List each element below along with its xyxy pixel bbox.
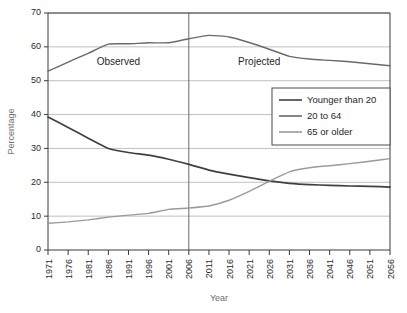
xtick-label-1986: 1986 [104, 259, 114, 279]
y-axis-title: Percentage [6, 108, 16, 154]
legend-label-1: 20 to 64 [307, 110, 341, 121]
ytick-label-70: 70 [31, 7, 41, 17]
chart-container: 010203040506070Percentage197119761981198… [0, 0, 407, 313]
ytick-label-60: 60 [31, 41, 41, 51]
ytick-label-10: 10 [31, 211, 41, 221]
region-label-projected: Projected [238, 56, 280, 67]
xtick-label-2051: 2051 [365, 259, 375, 279]
x-axis-title: Year [210, 293, 228, 303]
xtick-label-2036: 2036 [305, 259, 315, 279]
ytick-label-20: 20 [31, 177, 41, 187]
line-chart: 010203040506070Percentage197119761981198… [0, 0, 407, 313]
xtick-label-2016: 2016 [225, 259, 235, 279]
ytick-label-0: 0 [36, 244, 41, 254]
xtick-label-1981: 1981 [84, 259, 94, 279]
xtick-label-2056: 2056 [386, 259, 396, 279]
xtick-label-2031: 2031 [285, 259, 295, 279]
ytick-label-50: 50 [31, 75, 41, 85]
legend-label-0: Younger than 20 [307, 94, 376, 105]
xtick-label-2046: 2046 [345, 259, 355, 279]
xtick-label-2041: 2041 [325, 259, 335, 279]
xtick-label-2001: 2001 [164, 259, 174, 279]
ytick-label-30: 30 [31, 143, 41, 153]
xtick-label-2011: 2011 [204, 259, 214, 278]
xtick-label-1971: 1971 [44, 259, 54, 279]
legend-label-2: 65 or older [307, 126, 352, 137]
ytick-label-40: 40 [31, 109, 41, 119]
region-label-observed: Observed [97, 56, 140, 67]
xtick-label-1996: 1996 [144, 259, 154, 279]
xtick-label-2006: 2006 [184, 259, 194, 279]
xtick-label-2021: 2021 [245, 259, 255, 279]
xtick-label-1976: 1976 [64, 259, 74, 279]
xtick-label-1991: 1991 [124, 259, 134, 279]
xtick-label-2026: 2026 [265, 259, 275, 279]
